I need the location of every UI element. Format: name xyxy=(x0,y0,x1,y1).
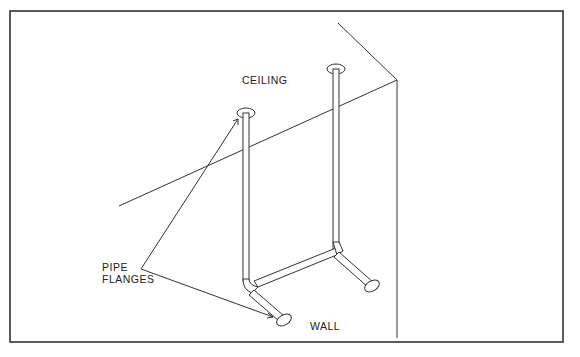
left-wall-branch xyxy=(243,279,293,328)
right-wall-branch xyxy=(333,242,381,294)
pipe-flanges-label-line1: PIPE xyxy=(102,261,128,273)
wall-label: WALL xyxy=(310,320,340,332)
room-edges xyxy=(119,23,397,338)
ceiling-label: CEILING xyxy=(242,74,288,86)
right-vertical-pipe xyxy=(327,64,345,249)
pipe-frame-diagram xyxy=(0,0,580,357)
frame-border xyxy=(10,11,563,342)
pipe-flanges-label-line2: FLANGES xyxy=(102,273,155,285)
left-vertical-pipe xyxy=(237,108,255,281)
connecting-pipe xyxy=(254,248,339,287)
